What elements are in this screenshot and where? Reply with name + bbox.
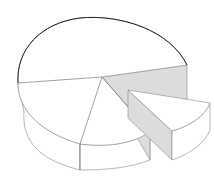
pie-3d-diagram (0, 0, 214, 184)
